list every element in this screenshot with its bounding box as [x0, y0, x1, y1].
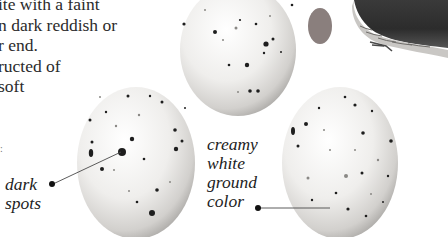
label-line: ground	[207, 173, 258, 192]
label-dark-spots: dark spots	[5, 175, 41, 213]
label-line: creamy	[207, 135, 258, 154]
egg-top	[180, 0, 296, 116]
text-line: soft	[0, 76, 117, 97]
text-line: r end.	[0, 35, 117, 56]
egg-size-oval	[308, 8, 332, 44]
text-line: n dark reddish or	[0, 15, 117, 36]
label-line: dark	[5, 175, 41, 194]
label-line: white	[207, 154, 258, 173]
description-paragraph: ite with a faint n dark reddish or r end…	[0, 0, 117, 97]
edge-text-fragment: :	[0, 143, 3, 154]
text-line: ite with a faint	[0, 0, 117, 15]
label-line: spots	[5, 194, 41, 213]
label-ground-color: creamy white ground color	[207, 135, 258, 211]
egg-left	[77, 87, 195, 237]
bird-illustration	[352, 0, 448, 58]
label-line: color	[207, 192, 258, 211]
egg-right	[282, 87, 398, 237]
text-line: ructed of	[0, 56, 117, 77]
